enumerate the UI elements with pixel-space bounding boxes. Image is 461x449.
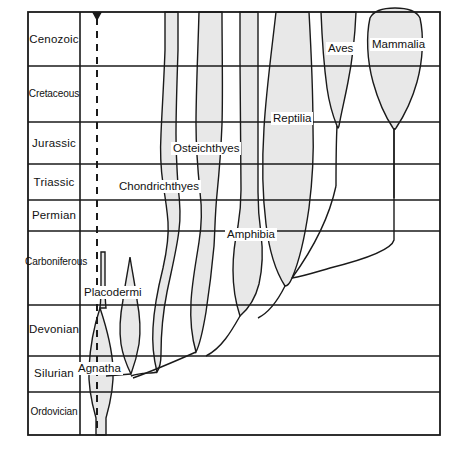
taxon-label-aves: Aves xyxy=(326,42,355,55)
taxon-label-amphibia: Amphibia xyxy=(225,228,277,241)
taxon-label-placodermi: Placodermi xyxy=(82,286,144,299)
taxon-label-mammalia: Mammalia xyxy=(370,38,427,51)
period-label-silurian: Silurian xyxy=(28,367,80,379)
taxon-label-osteichthyes: Osteichthyes xyxy=(171,142,241,155)
spindle-aves xyxy=(321,12,356,128)
period-label-ordovician: Ordovician xyxy=(28,406,80,417)
spindle-reptilia xyxy=(263,12,314,286)
taxon-label-chondrichthyes: Chondrichthyes xyxy=(117,180,201,193)
branch-aves-stem xyxy=(336,126,337,186)
period-label-cretaceous: Cretaceous xyxy=(28,88,80,99)
branch-reptilia-root xyxy=(258,286,285,318)
period-label-triassic: Triassic xyxy=(28,176,80,188)
period-label-carboniferous: Carboniferous xyxy=(25,256,83,267)
taxon-label-agnatha: Agnatha xyxy=(76,362,123,375)
period-label-devonian: Devonian xyxy=(28,323,80,335)
spindle-mammalia xyxy=(368,8,423,130)
taxon-label-reptilia: Reptilia xyxy=(271,112,313,125)
taxon-spindles xyxy=(89,8,423,435)
phylogeny-chart-canvas xyxy=(0,0,461,449)
period-label-cenozoic: Cenozoic xyxy=(28,33,80,45)
period-label-jurassic: Jurassic xyxy=(28,137,80,149)
spindle-agnatha-stem xyxy=(100,252,106,308)
period-label-permian: Permian xyxy=(28,209,80,221)
time-axis-arrowhead xyxy=(92,12,102,21)
spindle-diagram-figure: Cenozoic Cretaceous Jurassic Triassic Pe… xyxy=(0,0,461,449)
branch-amphibia-root xyxy=(206,316,240,356)
